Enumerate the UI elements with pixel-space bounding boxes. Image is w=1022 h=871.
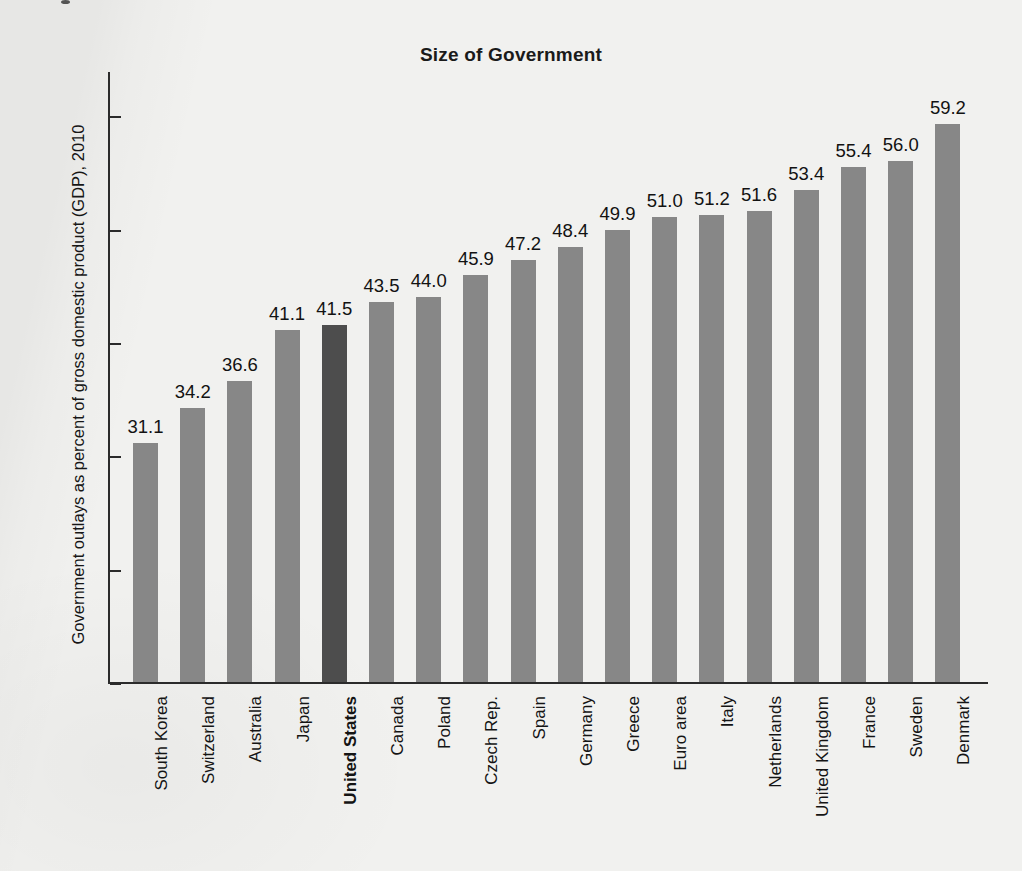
x-axis-category-label: South Korea: [152, 692, 172, 871]
x-axis-category-label: Netherlands: [766, 692, 786, 871]
y-axis-tick: [110, 683, 121, 685]
bar-group: 51.6: [736, 211, 783, 682]
bar[interactable]: [511, 260, 536, 682]
y-axis-tick: [110, 570, 121, 572]
bar-group: 48.4: [547, 247, 594, 682]
bar[interactable]: [841, 167, 866, 682]
x-axis-category-label: Greece: [624, 692, 644, 871]
x-axis-category-label: Euro area: [671, 692, 691, 871]
bar[interactable]: [463, 275, 488, 682]
x-axis-category-label: Poland: [435, 692, 455, 871]
y-axis-tick: [110, 230, 121, 232]
bar-group: 44.0: [405, 297, 452, 682]
bar[interactable]: [699, 215, 724, 682]
bar-group: 49.9: [594, 230, 641, 682]
y-axis-line: [108, 72, 110, 684]
bar[interactable]: [133, 443, 158, 682]
x-axis-category-label: Canada: [388, 692, 408, 871]
bar[interactable]: [275, 330, 300, 682]
y-axis-tick: [110, 343, 121, 345]
bar[interactable]: [558, 247, 583, 682]
bar[interactable]: [652, 217, 677, 682]
bar-group: 34.2: [169, 408, 216, 682]
bar[interactable]: [605, 230, 630, 682]
bar-group: 41.1: [264, 330, 311, 682]
x-axis-category-label: Spain: [530, 692, 550, 871]
y-axis-tick: [110, 456, 121, 458]
bar[interactable]: [794, 190, 819, 682]
bar[interactable]: [888, 161, 913, 682]
bar-group: 53.4: [783, 190, 830, 682]
bar[interactable]: [322, 325, 347, 682]
x-axis-category-label: Denmark: [954, 692, 974, 871]
x-axis-category-label: United Kingdom: [813, 692, 833, 871]
bar[interactable]: [369, 302, 394, 682]
x-axis-category-label: Sweden: [907, 692, 927, 871]
bar-chart: Size of Government Government outlays as…: [0, 0, 1022, 871]
bar[interactable]: [227, 381, 252, 682]
x-axis-line: [108, 682, 988, 684]
bar[interactable]: [747, 211, 772, 682]
bar-group: 47.2: [500, 260, 547, 682]
bar-group: 56.0: [877, 161, 924, 682]
x-axis-category-label: Japan: [294, 692, 314, 871]
x-axis-category-label: Italy: [718, 692, 738, 871]
bar[interactable]: [935, 124, 960, 682]
bar[interactable]: [416, 297, 441, 682]
bar-group: 31.1: [122, 443, 169, 682]
chart-title: Size of Government: [0, 44, 1022, 66]
y-axis-title: Government outlays as percent of gross d…: [69, 85, 88, 685]
bar-value-label: 59.2: [913, 97, 982, 119]
bar-group: 51.0: [641, 217, 688, 682]
bar-group: 41.5: [311, 325, 358, 682]
bar-group: 55.4: [830, 167, 877, 682]
bar-group: 59.2: [924, 124, 971, 682]
bar[interactable]: [180, 408, 205, 682]
x-axis-category-label: Czech Rep.: [482, 692, 502, 871]
bar-group: 45.9: [452, 275, 499, 682]
x-axis-category-label: United States: [341, 692, 361, 871]
y-axis-tick: [110, 116, 121, 118]
bar-group: 43.5: [358, 302, 405, 682]
x-axis-category-label: Germany: [577, 692, 597, 871]
plot-area: 102030405060 31.134.236.641.141.543.544.…: [108, 72, 988, 684]
bar-group: 51.2: [688, 215, 735, 682]
bar-group: 36.6: [216, 381, 263, 682]
x-axis-category-label: Switzerland: [199, 692, 219, 871]
x-axis-category-label: France: [860, 692, 880, 871]
x-axis-category-label: Australia: [246, 692, 266, 871]
